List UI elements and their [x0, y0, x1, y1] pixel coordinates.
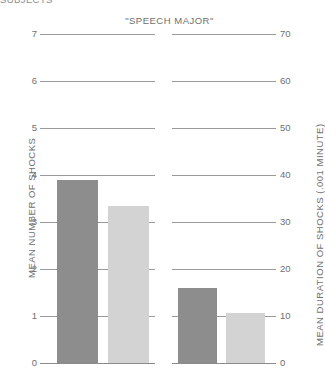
- tick-label-right: 70: [280, 29, 291, 39]
- bar-mean-duration-of-shocks-dark: [178, 288, 217, 363]
- gridline: [40, 363, 155, 364]
- tick-label-right: 40: [280, 170, 291, 180]
- gridline: [172, 175, 276, 176]
- gridline: [172, 34, 276, 35]
- gridline: [172, 81, 276, 82]
- right-axis-title: MEAN DURATION OF SHOCKS (.001 MINUTE): [314, 123, 325, 346]
- tick-label-right: 10: [280, 311, 291, 321]
- bar-mean-number-of-shocks-light: [108, 206, 149, 363]
- gridline: [172, 128, 276, 129]
- tick-label-right: 0: [280, 358, 285, 368]
- tick-label-right: 20: [280, 264, 291, 274]
- tick-label-right: 30: [280, 217, 291, 227]
- tick-label-right: 50: [280, 123, 291, 133]
- tick-label-right: 60: [280, 76, 291, 86]
- gridline: [40, 34, 155, 35]
- left-axis-title: MEAN NUMBER OF SHOCKS: [26, 138, 37, 278]
- tick-label-left: 0: [32, 358, 37, 368]
- tick-label-left: 5: [32, 123, 37, 133]
- tick-label-left: 1: [32, 311, 37, 321]
- gridline: [40, 81, 155, 82]
- gridline: [172, 269, 276, 270]
- gridline: [40, 128, 155, 129]
- bar-mean-duration-of-shocks-light: [226, 313, 265, 363]
- tick-label-left: 7: [32, 29, 37, 39]
- tick-label-left: 6: [32, 76, 37, 86]
- bar-mean-number-of-shocks-dark: [57, 180, 98, 363]
- gridline: [172, 363, 276, 364]
- gridline: [40, 175, 155, 176]
- gridline: [172, 222, 276, 223]
